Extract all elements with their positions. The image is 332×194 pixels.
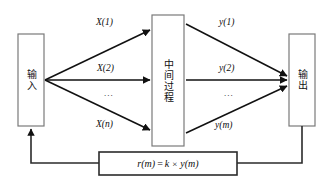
feedback-path-to-input: [31, 129, 99, 163]
formula-times: ×: [169, 159, 180, 169]
edge-label-x1: X(1): [96, 17, 113, 27]
edge-output-m: [186, 86, 287, 133]
edge-label-y2: y(2): [219, 63, 234, 73]
edge-label-y1: y(1): [219, 17, 234, 27]
output-box-label: 输出: [289, 34, 315, 126]
input-ellipsis: ...: [104, 88, 114, 98]
edge-label-ym: y(m): [215, 120, 232, 130]
input-box-label: 输入: [18, 34, 44, 126]
feedback-path-from-output: [237, 126, 302, 163]
edge-label-x2: X(2): [97, 63, 114, 73]
edge-output-1: [186, 24, 287, 76]
diagram-canvas: 输入 中间过程 输出 X(1) X(2) ... X(n) y(1) y(2) …: [0, 0, 332, 194]
process-box-label: 中间过程: [152, 15, 184, 146]
edge-label-xn: X(n): [96, 119, 113, 129]
formula-lhs: r(m): [137, 158, 155, 169]
output-ellipsis: ...: [224, 88, 234, 98]
formula-rhs: y(m): [180, 158, 198, 169]
formula-equals: =: [155, 158, 165, 169]
feedback-formula: r(m)=k×y(m): [99, 152, 237, 175]
